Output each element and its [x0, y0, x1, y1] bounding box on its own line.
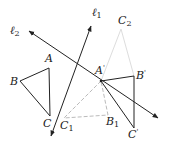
- label-a-prime: A': [95, 65, 105, 76]
- triangle-a-c1-b1-dashed: [64, 81, 108, 118]
- triangle-c2-faint: [101, 29, 134, 81]
- label-c-prime: C': [128, 129, 138, 140]
- point-a-prime-dot: [100, 80, 103, 83]
- label-c: C: [43, 118, 51, 129]
- diagram-canvas: ℓ2 ℓ1 A B C A' B' C' C1 B1 C2: [0, 0, 169, 145]
- label-b: B: [10, 76, 18, 87]
- label-b-prime: B': [136, 70, 146, 81]
- label-b1: B1: [106, 116, 119, 129]
- label-a: A: [45, 53, 53, 64]
- label-c1: C1: [60, 120, 74, 133]
- triangle-abc: [20, 68, 50, 116]
- label-l2: ℓ2: [10, 25, 20, 38]
- label-c2: C2: [118, 15, 132, 28]
- label-l1: ℓ1: [92, 7, 102, 20]
